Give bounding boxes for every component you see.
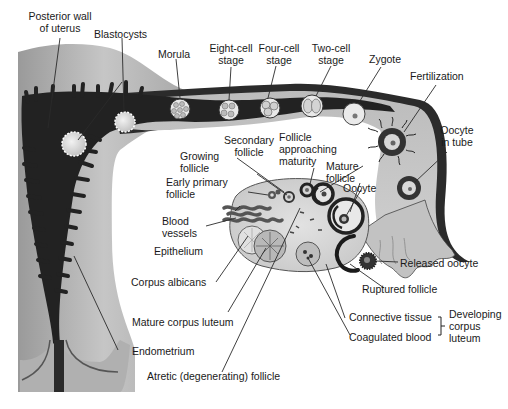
zygote [343, 103, 365, 125]
label-line: Follicle [279, 131, 337, 143]
label-line: Blood [162, 215, 197, 227]
label-zygote: Zygote [369, 53, 401, 65]
label-early-primary-follicle: Early primary follicle [166, 176, 228, 200]
label-line: follicle [222, 146, 276, 158]
label-four-cell-stage: Four-cell stage [256, 42, 302, 66]
label-line: approaching [279, 143, 337, 155]
label-line: vessels [162, 227, 197, 239]
label-line: Early primary [166, 176, 228, 188]
label-mature-follicle: Mature follicle [326, 160, 359, 184]
label-line: Oocyte [436, 124, 478, 136]
label-blood-vessels: Blood vessels [162, 215, 197, 239]
label-ruptured-follicle: Ruptured follicle [362, 283, 437, 295]
label-posterior-wall: Posterior wall of uterus [24, 10, 96, 34]
label-connective-tissue: Connective tissue [349, 311, 432, 323]
label-eight-cell-stage: Eight-cell stage [206, 42, 256, 66]
ovarian-cycle-diagram: Posterior wall of uterus Blastocysts Mor… [0, 0, 508, 409]
label-line: Two-cell [308, 42, 354, 54]
label-line: Posterior wall [24, 10, 96, 22]
label-developing-corpus-luteum: Developing corpus luteum [449, 308, 502, 344]
two-cell-stage [301, 95, 323, 117]
label-line: Mature [326, 160, 359, 172]
label-released-oocyte: Released oocyte [400, 257, 478, 269]
label-oocyte: Oocyte [343, 182, 376, 194]
label-line: Growing [180, 150, 219, 162]
label-line: follicle [166, 188, 228, 200]
label-line: corpus [449, 320, 502, 332]
label-corpus-albicans: Corpus albicans [131, 276, 206, 288]
label-two-cell-stage: Two-cell stage [308, 42, 354, 66]
label-atretic-follicle: Atretic (degenerating) follicle [147, 370, 280, 382]
label-line: Four-cell [256, 42, 302, 54]
released-oocyte [360, 253, 376, 269]
label-endometrium: Endometrium [132, 345, 194, 357]
label-secondary-follicle: Secondary follicle [222, 134, 276, 158]
label-fertilization: Fertilization [410, 70, 464, 82]
label-morula: Morula [158, 48, 190, 60]
label-line: Eight-cell [206, 42, 256, 54]
label-oocyte-in-tube: Oocyte in tube [436, 124, 478, 148]
label-epithelium: Epithelium [154, 245, 203, 257]
label-line: luteum [449, 332, 502, 344]
label-line: stage [206, 54, 256, 66]
label-line: in tube [436, 136, 478, 148]
eight-cell-stage [219, 100, 239, 120]
label-coagulated-blood: Coagulated blood [349, 331, 431, 343]
label-line: stage [256, 54, 302, 66]
four-cell-stage [260, 98, 280, 118]
label-line: stage [308, 54, 354, 66]
label-line: of uterus [24, 22, 96, 34]
label-mature-corpus-luteum: Mature corpus luteum [132, 316, 234, 328]
label-blastocysts: Blastocysts [94, 28, 147, 40]
label-line: Secondary [222, 134, 276, 146]
label-growing-follicle: Growing follicle [180, 150, 219, 174]
label-line: follicle [180, 162, 219, 174]
bracket [438, 317, 445, 335]
label-line: Developing [449, 308, 502, 320]
morula [170, 99, 190, 119]
